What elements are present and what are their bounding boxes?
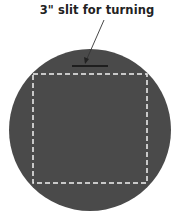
fabric-diagram (0, 0, 180, 211)
